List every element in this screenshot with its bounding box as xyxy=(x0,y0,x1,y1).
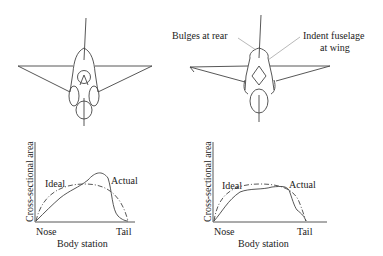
callout-bulges-at-rear: Bulges at rear xyxy=(172,30,228,41)
chart-left-ylabel: Cross-sectional area xyxy=(24,141,35,222)
aircraft-left-icon xyxy=(18,18,152,126)
chart-right-actual-line xyxy=(214,186,306,221)
chart-left-ideal-line xyxy=(36,184,128,221)
chart-left-actual-label: Actual xyxy=(111,175,138,186)
chart-left-xlabel: Body station xyxy=(57,238,108,249)
chart-right-ideal-label: Ideal xyxy=(222,180,242,191)
chart-right-actual-label: Actual xyxy=(289,179,316,190)
callout-at-wing: at wing xyxy=(320,42,350,53)
chart-right-x-start: Nose xyxy=(214,226,235,237)
chart-right-x-end: Tail xyxy=(297,226,312,237)
chart-left-x-start: Nose xyxy=(36,226,57,237)
chart-left-x-end: Tail xyxy=(116,226,131,237)
callout-indent-fuselage: Indent fuselage xyxy=(303,30,364,41)
chart-left-ideal-label: Ideal xyxy=(45,178,65,189)
chart-right-xlabel: Body station xyxy=(238,238,289,249)
chart-right-ylabel: Cross-sectional area xyxy=(202,141,213,222)
